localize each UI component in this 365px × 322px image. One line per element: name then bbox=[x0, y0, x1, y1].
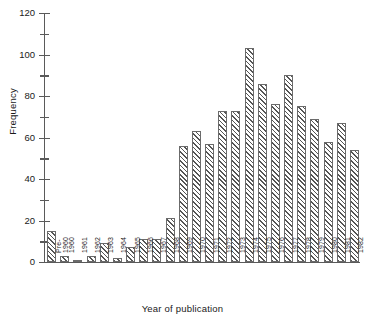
y-axis-tick-label: 120 bbox=[19, 8, 35, 18]
x-axis-title: Year of publication bbox=[0, 303, 365, 314]
x-axis-tick-label: 1982 bbox=[357, 237, 364, 253]
x-axis-tick-label: 1975 bbox=[265, 237, 272, 253]
y-axis-major-tick: 20 bbox=[39, 221, 50, 222]
y-axis-minor-tick bbox=[40, 200, 49, 201]
y-axis-minor-tick bbox=[40, 75, 49, 76]
x-axis-tick-label: 1970 bbox=[199, 237, 206, 253]
y-axis-tick-label: 80 bbox=[24, 91, 35, 101]
bar-chart: Frequency 020406080100120 Pre- 196019601… bbox=[0, 0, 365, 322]
bar bbox=[60, 256, 69, 262]
x-axis-tick-label: 1960 bbox=[68, 237, 75, 253]
y-axis-major-tick: 120 bbox=[39, 13, 50, 14]
x-axis-tick-label: 1976 bbox=[278, 237, 285, 253]
y-axis-tick-label: 40 bbox=[24, 174, 35, 184]
y-axis-major-tick: 0 bbox=[39, 262, 50, 263]
x-axis-tick-label: 1962 bbox=[94, 237, 101, 253]
x-axis-tick-label: 1966 bbox=[147, 237, 154, 253]
x-axis-tick-label: 1964 bbox=[120, 237, 127, 253]
x-axis-tick-label: 1978 bbox=[305, 237, 312, 253]
y-axis-major-tick: 40 bbox=[39, 179, 50, 180]
y-axis-major-tick: 60 bbox=[39, 138, 50, 139]
bar bbox=[245, 48, 254, 262]
y-axis-major-tick: 100 bbox=[39, 55, 50, 56]
y-axis-tick-label: 100 bbox=[19, 50, 35, 60]
x-axis-tick-label: 1973 bbox=[239, 237, 246, 253]
plot-area: 020406080100120 bbox=[44, 13, 360, 262]
x-axis-tick-label: 1981 bbox=[344, 237, 351, 253]
x-axis-tick-label: 1968 bbox=[173, 237, 180, 253]
y-axis-minor-tick bbox=[40, 158, 49, 159]
x-axis-tick-label: 1977 bbox=[292, 237, 299, 253]
y-axis-title: Frequency bbox=[7, 62, 18, 162]
x-axis-tick-label: 1969 bbox=[186, 237, 193, 253]
x-axis-tick-label: 1965 bbox=[134, 237, 141, 253]
x-axis-tick-label: 1979 bbox=[318, 237, 325, 253]
bar bbox=[73, 260, 82, 262]
x-axis-tick-label: 1980 bbox=[331, 237, 338, 253]
y-axis-tick-label: 0 bbox=[30, 257, 35, 267]
bar bbox=[258, 84, 267, 262]
y-axis-tick-label: 60 bbox=[24, 133, 35, 143]
x-axis-tick-label: 1963 bbox=[107, 237, 114, 253]
x-axis-tick-label: 1972 bbox=[226, 237, 233, 253]
y-axis-tick-label: 20 bbox=[24, 216, 35, 226]
x-axis-tick-label: 1974 bbox=[252, 237, 259, 253]
bar bbox=[113, 258, 122, 262]
x-axis-line bbox=[44, 262, 360, 263]
x-axis-tick-label: 1967 bbox=[160, 237, 167, 253]
x-axis-tick-label: 1971 bbox=[213, 237, 220, 253]
y-axis-minor-tick bbox=[40, 34, 49, 35]
y-axis-minor-tick bbox=[40, 117, 49, 118]
y-axis-major-tick: 80 bbox=[39, 96, 50, 97]
bar bbox=[284, 75, 293, 262]
x-axis-tick-label: 1961 bbox=[81, 237, 88, 253]
bar bbox=[87, 256, 96, 262]
